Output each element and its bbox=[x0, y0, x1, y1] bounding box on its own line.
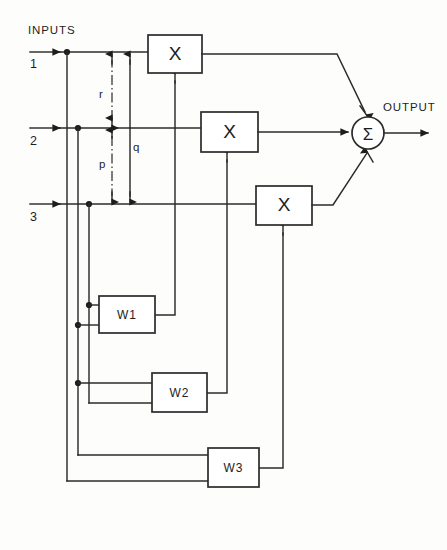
inputs-label: INPUTS bbox=[28, 24, 76, 36]
riser-w2-to-mul2 bbox=[207, 150, 227, 393]
multiplier-1-symbol: X bbox=[169, 43, 182, 64]
weight-box-w3[interactable]: W3 bbox=[208, 448, 259, 487]
output-mul1-to-summer bbox=[202, 54, 368, 117]
multiplier-2-symbol: X bbox=[223, 121, 236, 142]
weight-box-w3-label: W3 bbox=[223, 461, 243, 475]
input-line-3: 3 bbox=[30, 201, 256, 224]
variable-label-q: q bbox=[133, 141, 139, 153]
feed-bus-input-1 bbox=[67, 52, 208, 481]
multiplier-2[interactable]: X bbox=[201, 112, 258, 152]
input-2-label: 2 bbox=[30, 134, 37, 148]
multiplier-3-symbol: X bbox=[278, 194, 291, 215]
riser-w3-to-mul3 bbox=[259, 223, 283, 468]
output-label: OUTPUT bbox=[383, 101, 436, 113]
input-3-label: 3 bbox=[30, 210, 37, 224]
output-mul3-to-summer bbox=[312, 150, 373, 205]
block-diagram-figure: INPUTS OUTPUT 1 2 3 bbox=[0, 0, 447, 550]
riser-w1-to-mul1 bbox=[155, 71, 175, 315]
summation-symbol: Σ bbox=[363, 125, 374, 144]
weight-box-w2-label: W2 bbox=[169, 386, 189, 400]
weight-box-w1-label: W1 bbox=[117, 308, 137, 322]
multiplier-1[interactable]: X bbox=[148, 35, 202, 73]
multiplier-3[interactable]: X bbox=[256, 186, 312, 225]
input-1-label: 1 bbox=[30, 57, 37, 71]
summation-node[interactable]: Σ bbox=[352, 117, 384, 149]
weight-box-w2[interactable]: W2 bbox=[152, 373, 207, 412]
variable-label-r: r bbox=[99, 88, 103, 100]
variable-label-p: p bbox=[99, 158, 105, 170]
diagram-canvas: INPUTS OUTPUT 1 2 3 bbox=[0, 0, 447, 550]
weight-box-w1[interactable]: W1 bbox=[99, 296, 155, 333]
